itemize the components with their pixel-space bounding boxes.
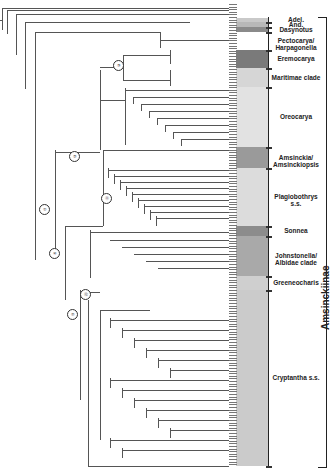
tip-branch <box>229 142 237 143</box>
tip-branch <box>229 269 237 270</box>
tip-branch <box>229 423 237 424</box>
clade-band-pectocarya <box>236 32 268 50</box>
clade-label-sonnea: Sonnea <box>271 227 321 234</box>
branch <box>120 182 229 183</box>
tip-branch <box>229 371 237 372</box>
tip-branch <box>229 189 237 190</box>
clade-label-dasynotus: Dasynotus <box>271 26 321 33</box>
tip-branch <box>229 170 237 171</box>
clade-boundary-tick <box>266 290 272 292</box>
clade-band-eremocarya <box>236 50 268 68</box>
tip-branch <box>229 178 237 179</box>
tip-branch <box>229 384 237 385</box>
tip-branch <box>229 399 237 400</box>
tip-branch <box>229 72 237 73</box>
tip-branch <box>229 267 237 268</box>
tip-branch <box>229 46 237 47</box>
tip-branch <box>229 251 237 252</box>
tip-branch <box>229 90 237 91</box>
tip-branch <box>229 402 237 403</box>
tip-branch <box>229 451 237 452</box>
tip-branch <box>229 56 237 57</box>
tip-branch <box>229 66 237 67</box>
branch <box>122 388 123 398</box>
branch <box>100 100 125 101</box>
tip-branch <box>229 378 237 379</box>
tip-branch <box>229 430 237 431</box>
tip-branch <box>229 74 237 75</box>
branch <box>158 360 229 361</box>
tip-branch <box>229 194 237 195</box>
tip-branch <box>229 17 237 18</box>
tip-branch <box>229 345 237 346</box>
phylogenetic-tree-figure: ③②⑪①④⑫⑤ Adel.And.DasynotusPectocarya/ Ha… <box>0 0 331 476</box>
tip-branch <box>229 293 237 294</box>
tip-branch <box>229 69 237 70</box>
branch <box>126 186 127 196</box>
tip-branch <box>229 352 237 353</box>
tip-branch <box>229 77 237 78</box>
clade-label-maritimae: Maritimae clade <box>271 74 321 81</box>
branch <box>170 368 171 378</box>
tip-branch <box>229 95 237 96</box>
branch <box>122 330 229 331</box>
branch <box>134 398 135 408</box>
tip-branch <box>229 87 237 88</box>
branch <box>103 150 104 226</box>
branch <box>114 176 229 177</box>
branch <box>7 10 8 34</box>
branch <box>122 450 229 451</box>
branch <box>2 8 229 9</box>
tip-branch <box>229 168 237 169</box>
branch <box>150 212 229 213</box>
tip-branch <box>229 14 237 15</box>
branch <box>110 320 229 321</box>
branch <box>35 32 36 260</box>
branch <box>110 378 111 388</box>
circled-node-label: ⑤ <box>67 309 78 320</box>
tip-branch <box>229 363 237 364</box>
tip-branch <box>229 38 237 39</box>
tip-branch <box>229 144 237 145</box>
subfamily-bracket <box>318 17 327 468</box>
tip-branch <box>229 147 237 148</box>
tip-branch <box>229 157 237 158</box>
clade-label-oreocarya: Oreocarya <box>271 113 321 120</box>
branch <box>146 408 147 418</box>
tip-branch <box>229 438 237 439</box>
clade-band-sonnea <box>236 226 268 236</box>
tip-branch <box>229 397 237 398</box>
tip-branch <box>229 324 237 325</box>
tip-branch <box>229 217 237 218</box>
tip-branch <box>229 126 237 127</box>
branch <box>146 410 229 411</box>
tip-branch <box>229 334 237 335</box>
branch <box>65 226 103 227</box>
tip-branch <box>229 433 237 434</box>
clade-divider-line <box>268 17 269 466</box>
branch <box>132 194 229 195</box>
branch <box>2 8 3 30</box>
tip-branch <box>229 391 237 392</box>
circled-node-label: ④ <box>49 248 60 259</box>
tip-branch <box>229 212 237 213</box>
clade-band-johnstonella <box>236 236 268 276</box>
clade-boundary-tick <box>266 466 272 468</box>
tip-branch <box>229 415 237 416</box>
subfamily-label: Amsinckiinae <box>320 266 331 330</box>
tip-branch <box>229 443 237 444</box>
tip-branch <box>229 376 237 377</box>
tip-branch <box>229 124 237 125</box>
branch <box>157 118 229 119</box>
tip-branch <box>229 256 237 257</box>
tip-branch <box>229 105 237 106</box>
tip-branch <box>229 347 237 348</box>
tip-branch <box>229 329 237 330</box>
clade-band-cryptantha <box>236 290 268 466</box>
clade-label-eremocarya: Eremocarya <box>271 55 321 62</box>
branch <box>80 290 81 400</box>
circled-node-label: ⑫ <box>80 289 91 300</box>
tip-branch <box>229 274 237 275</box>
tip-branch <box>229 308 237 309</box>
tip-branch <box>229 241 237 242</box>
